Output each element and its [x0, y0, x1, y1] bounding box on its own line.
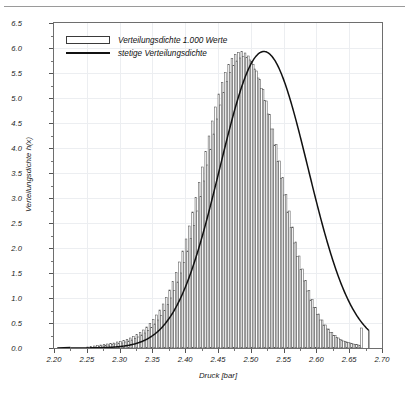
x-axis-tick-mark: [152, 349, 153, 353]
y-axis-tick-mark: [49, 148, 53, 149]
y-axis-tick-mark: [49, 223, 53, 224]
x-axis-tick-minor: [202, 349, 203, 351]
legend-item-histogram: Verteilungsdichte 1.000 Werte: [66, 34, 266, 47]
y-axis-tick-mark: [49, 48, 53, 49]
y-axis-tick-mark: [49, 248, 53, 249]
y-axis-tick-label: 6.5: [0, 19, 22, 28]
x-axis-tick-mark: [382, 349, 383, 353]
y-axis-tick-label: 4.5: [0, 119, 22, 128]
y-axis-tick-mark: [49, 23, 53, 24]
y-axis-tick-minor: [51, 286, 53, 287]
legend-label-density: stetige Verteilungsdichte: [118, 47, 207, 60]
y-axis-tick-minor: [51, 186, 53, 187]
x-axis-tick-minor: [267, 349, 268, 351]
x-axis-tick-mark: [120, 349, 121, 353]
y-axis-tick-mark: [49, 273, 53, 274]
x-axis-tick-mark: [284, 349, 285, 353]
figure-page: 0.00.51.01.52.02.53.03.54.04.55.05.56.06…: [0, 0, 409, 411]
y-axis-tick-mark: [49, 98, 53, 99]
series-layer: [54, 23, 382, 348]
legend-label-histogram: Verteilungsdichte 1.000 Werte: [118, 34, 227, 47]
plot-area: [53, 22, 383, 349]
y-axis-tick-minor: [51, 336, 53, 337]
legend-item-density: stetige Verteilungsdichte: [66, 47, 266, 60]
y-axis-tick-mark: [49, 173, 53, 174]
y-axis-tick-label: 0.5: [0, 319, 22, 328]
x-axis-tick-minor: [136, 349, 137, 351]
y-axis-tick-minor: [51, 136, 53, 137]
figure-caption: [4, 401, 405, 411]
y-axis-tick-mark: [49, 348, 53, 349]
x-axis-tick-mark: [54, 349, 55, 353]
y-axis-tick-minor: [51, 236, 53, 237]
y-axis-tick-label: 3.5: [0, 169, 22, 178]
x-axis-label: Druck [bar]: [53, 371, 383, 380]
x-axis-tick-minor: [234, 349, 235, 351]
y-axis-tick-label: 0.0: [0, 344, 22, 353]
x-axis-tick-mark: [349, 349, 350, 353]
x-axis-tick-minor: [103, 349, 104, 351]
x-axis-tick-minor: [366, 349, 367, 351]
y-axis-tick-minor: [51, 261, 53, 262]
header-divider: [4, 6, 405, 7]
y-axis-tick-mark: [49, 73, 53, 74]
density-curve: [54, 23, 382, 348]
x-axis-tick-label: 2.70: [362, 355, 402, 364]
x-axis-tick-mark: [185, 349, 186, 353]
y-axis-tick-mark: [49, 123, 53, 124]
x-axis-tick-mark: [251, 349, 252, 353]
y-axis-tick-label: 1.0: [0, 294, 22, 303]
y-axis-tick-minor: [51, 61, 53, 62]
y-axis-tick-minor: [51, 211, 53, 212]
y-axis-tick-label: 1.5: [0, 269, 22, 278]
y-axis-tick-label: 6.0: [0, 44, 22, 53]
y-axis-tick-label: 3.0: [0, 194, 22, 203]
y-axis-tick-minor: [51, 111, 53, 112]
x-axis-tick-mark: [316, 349, 317, 353]
y-axis-tick-label: 5.0: [0, 94, 22, 103]
x-axis-tick-minor: [333, 349, 334, 351]
y-axis-tick-label: 5.5: [0, 69, 22, 78]
y-axis-tick-minor: [51, 161, 53, 162]
x-axis-tick-minor: [169, 349, 170, 351]
y-axis-tick-mark: [49, 323, 53, 324]
y-axis-label: Verteilungsdichte h(x): [24, 95, 33, 255]
x-axis-tick-mark: [87, 349, 88, 353]
bar-swatch-icon: [66, 36, 110, 44]
x-axis-tick-mark: [218, 349, 219, 353]
y-axis-tick-minor: [51, 86, 53, 87]
y-axis-tick-label: 2.0: [0, 244, 22, 253]
y-axis-tick-label: 2.5: [0, 219, 22, 228]
y-axis-tick-label: 4.0: [0, 144, 22, 153]
line-swatch-icon: [66, 52, 110, 54]
x-axis-tick-minor: [70, 349, 71, 351]
x-axis-tick-minor: [300, 349, 301, 351]
y-axis-tick-minor: [51, 36, 53, 37]
y-axis-tick-minor: [51, 311, 53, 312]
y-axis-tick-mark: [49, 298, 53, 299]
chart-figure: 0.00.51.01.52.02.53.03.54.04.55.05.56.06…: [0, 10, 409, 395]
y-axis-tick-mark: [49, 198, 53, 199]
density-curve-path: [70, 52, 368, 348]
chart-legend: Verteilungsdichte 1.000 Werte stetige Ve…: [66, 34, 266, 60]
